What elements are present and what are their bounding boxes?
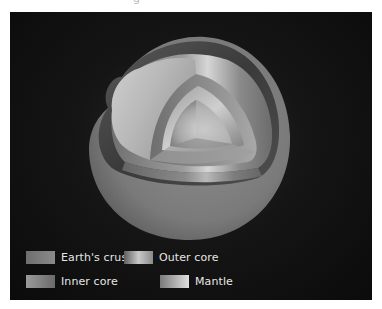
- legend-label: Earth's crust: [61, 251, 132, 264]
- legend-item-inner-core: Inner core: [26, 275, 118, 288]
- legend-item-mantle: Mantle: [160, 275, 233, 288]
- legend-label: Mantle: [195, 275, 233, 288]
- outer-core-swatch: [124, 251, 153, 264]
- inner-core-swatch: [26, 275, 55, 288]
- legend-label: Inner core: [61, 275, 118, 288]
- crust-swatch: [26, 251, 55, 264]
- legend-item-crust: Earth's crust: [26, 251, 132, 264]
- mantle-swatch: [160, 275, 189, 288]
- legend-label: Outer core: [159, 251, 219, 264]
- legend-item-outer-core: Outer core: [124, 251, 219, 264]
